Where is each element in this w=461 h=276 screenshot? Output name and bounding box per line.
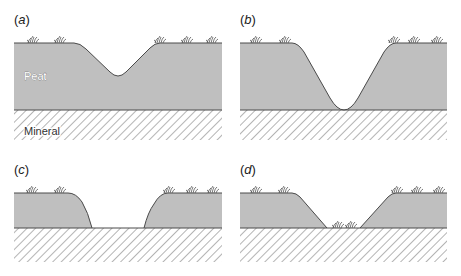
grass-tuft-icon: [431, 36, 443, 43]
peat-label: Peat: [24, 70, 47, 82]
grass-tuft-icon: [154, 36, 166, 43]
grass-tuft-icon: [332, 221, 344, 228]
peat-drainage-diagram: (a) Peat Mineral (b) (c): [0, 0, 461, 276]
grass-tuft-icon: [278, 186, 290, 193]
peat-layer-right: [144, 193, 222, 228]
grass-tuft-icon: [345, 221, 357, 228]
peat-layer-left: [240, 193, 327, 228]
panel-label-c: (c): [14, 162, 29, 177]
grass-tuft-icon: [181, 36, 193, 43]
peat-layer-right: [360, 193, 447, 228]
mineral-layer: [14, 228, 222, 262]
peat-layer-left: [14, 193, 92, 228]
grass-tuft-icon: [206, 36, 218, 43]
grass-tuft-icon: [27, 36, 39, 43]
panel-label-d: (d): [240, 162, 256, 177]
grass-tuft-icon: [54, 36, 66, 43]
grass-tuft-icon: [391, 186, 403, 193]
grass-tuft-icon: [186, 186, 198, 193]
grass-tuft-icon: [388, 36, 400, 43]
mineral-layer: [240, 110, 447, 140]
mineral-layer: [240, 228, 447, 262]
grass-tuft-icon: [408, 36, 420, 43]
panel-b: (b): [240, 12, 447, 140]
panel-d: (d): [240, 162, 447, 262]
mineral-label: Mineral: [24, 125, 60, 137]
grass-tuft-icon: [250, 186, 262, 193]
panel-label-b: (b): [240, 12, 256, 27]
grass-tuft-icon: [279, 36, 291, 43]
grass-tuft-icon: [54, 186, 66, 193]
panel-label-a: (a): [14, 12, 30, 27]
grass-tuft-icon: [26, 186, 38, 193]
panel-a: (a) Peat Mineral: [14, 12, 222, 140]
grass-tuft-icon: [207, 186, 219, 193]
panel-c: (c): [14, 162, 222, 262]
grass-tuft-icon: [163, 186, 175, 193]
grass-tuft-icon: [411, 186, 423, 193]
grass-tuft-icon: [433, 186, 445, 193]
peat-layer: [240, 43, 447, 110]
grass-tuft-icon: [250, 36, 262, 43]
